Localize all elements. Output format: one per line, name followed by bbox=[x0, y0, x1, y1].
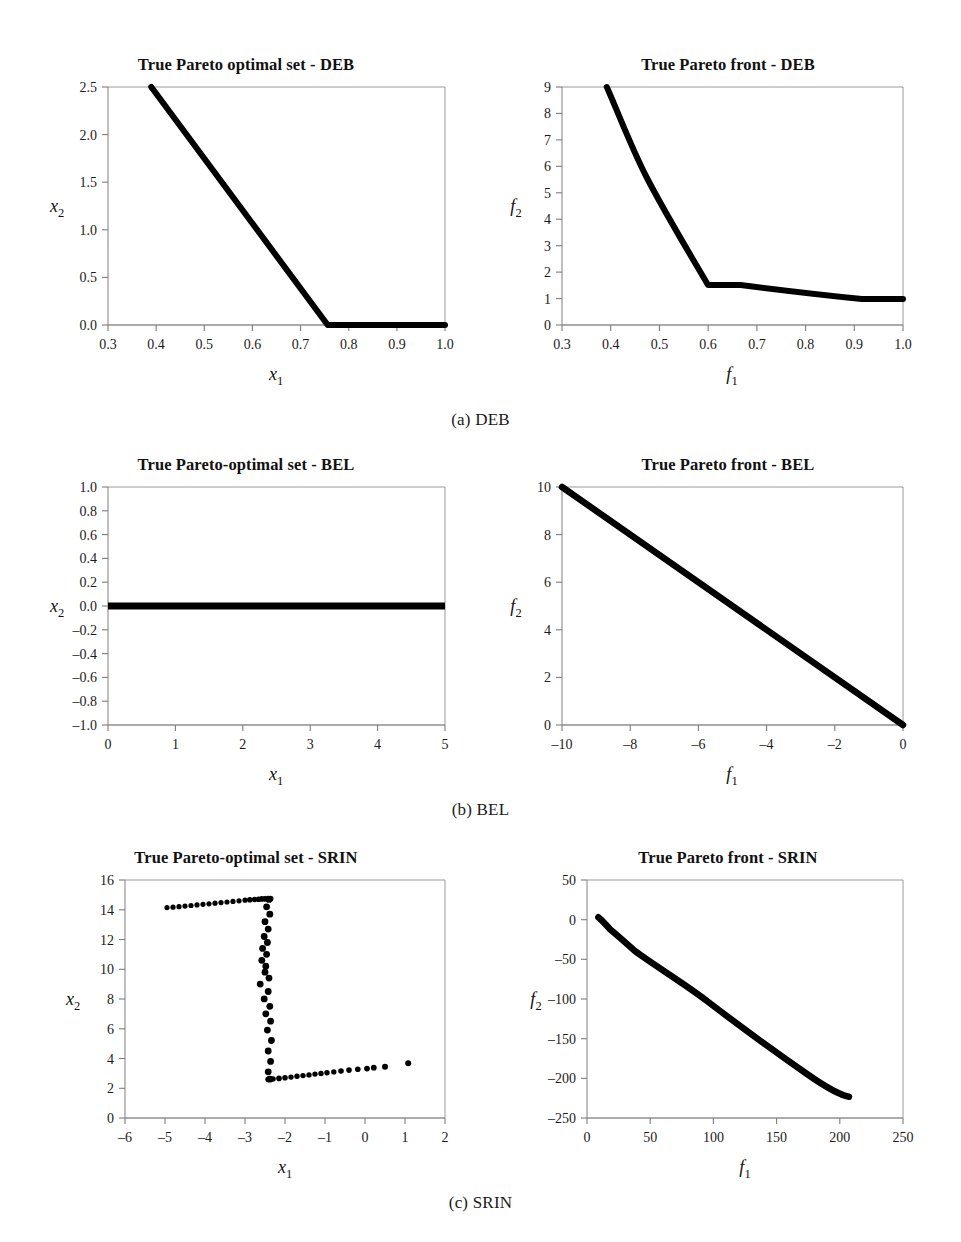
ytick-label: –100 bbox=[547, 992, 576, 1007]
xtick-label: 250 bbox=[893, 1130, 914, 1145]
ytick-label: 1.0 bbox=[80, 223, 98, 238]
plot-bel-set: –1.0 –0.8 –0.6 –0.4 –0.2 0.0 0.2 0.4 0.6… bbox=[25, 477, 475, 797]
xtick-label: –5 bbox=[157, 1130, 172, 1145]
xtick-label: 0.4 bbox=[147, 337, 165, 352]
xtick-label: 1.0 bbox=[436, 337, 454, 352]
xtick-label: 0.5 bbox=[196, 337, 214, 352]
ytick-label: 14 bbox=[100, 903, 114, 918]
ytick-label: 16 bbox=[100, 873, 114, 888]
data-series-srin-lower-arm bbox=[265, 1060, 411, 1082]
xtick-label: 100 bbox=[703, 1130, 724, 1145]
data-series-srin-front bbox=[598, 917, 849, 1097]
ytick-label: –0.4 bbox=[72, 647, 98, 662]
xtick-label: 50 bbox=[643, 1130, 657, 1145]
xaxis-title-bel-front: f1 bbox=[726, 764, 737, 788]
xtick-label: 0.7 bbox=[292, 337, 310, 352]
xtick-label: 5 bbox=[442, 737, 449, 752]
ytick-label: 2 bbox=[544, 265, 551, 280]
xtick-label: –4 bbox=[759, 737, 774, 752]
chart-panel-srin-set: True Pareto-optimal set - SRIN bbox=[25, 848, 475, 1193]
figure-row-deb: True Pareto optimal set - DEB 0.0 0.5 bbox=[0, 55, 961, 400]
xtick-label: 1 bbox=[402, 1130, 409, 1145]
xtick-label: –4 bbox=[197, 1130, 212, 1145]
yaxis-title-deb-front: f2 bbox=[510, 196, 521, 220]
ytick-label: 2 bbox=[107, 1081, 114, 1096]
xtick-label: 0.3 bbox=[99, 337, 117, 352]
ytick-label: 4 bbox=[107, 1052, 114, 1067]
data-series-deb-set bbox=[151, 87, 445, 325]
xtick-label: –2 bbox=[277, 1130, 292, 1145]
xtick-label: 0.9 bbox=[846, 337, 864, 352]
chart-title-srin-front: True Pareto front - SRIN bbox=[492, 848, 942, 868]
xtick-label: 0 bbox=[900, 737, 907, 752]
xtick-label: –2 bbox=[827, 737, 842, 752]
data-series-bel-front bbox=[562, 487, 903, 725]
yaxis-title-deb-set: x2 bbox=[49, 196, 64, 220]
xticks-srin-set: –6 –5 –4 –3 –2 –1 0 1 2 bbox=[117, 1118, 449, 1145]
subfigure-caption-srin: (c) SRIN bbox=[0, 1193, 961, 1213]
yticks-bel-set: –1.0 –0.8 –0.6 –0.4 –0.2 0.0 0.2 0.4 0.6… bbox=[72, 480, 109, 733]
ytick-label: 10 bbox=[100, 962, 114, 977]
xaxis-title-srin-set: x1 bbox=[277, 1157, 292, 1181]
yaxis-title-bel-front: f2 bbox=[510, 596, 521, 620]
ytick-label: 0 bbox=[107, 1111, 114, 1126]
ytick-label: –250 bbox=[547, 1111, 576, 1126]
chart-title-deb-set: True Pareto optimal set - DEB bbox=[25, 55, 475, 75]
xtick-label: 0.8 bbox=[797, 337, 815, 352]
xtick-label: 2 bbox=[239, 737, 246, 752]
plot-deb-set: 0.0 0.5 1.0 1.5 2.0 2.5 0.3 bbox=[25, 77, 475, 397]
ytick-label: 0 bbox=[569, 913, 576, 928]
axes-deb-set bbox=[108, 87, 445, 325]
xaxis-title-deb-set: x1 bbox=[268, 364, 283, 388]
yaxis-title-srin-set: x2 bbox=[65, 989, 80, 1013]
xtick-label: 0 bbox=[105, 737, 112, 752]
xtick-label: 0.7 bbox=[748, 337, 766, 352]
ytick-label: 0.0 bbox=[80, 318, 98, 333]
yticks-srin-set: 0 2 4 6 8 10 12 14 16 bbox=[100, 873, 125, 1126]
plot-bel-front: 0 2 4 6 8 10 –10 –8 –6 –4 bbox=[492, 477, 942, 797]
xtick-label: –6 bbox=[690, 737, 705, 752]
ytick-label: 0 bbox=[544, 318, 551, 333]
ytick-label: –150 bbox=[547, 1032, 576, 1047]
plot-srin-front: –250 –200 –150 –100 –50 0 50 0 50 bbox=[492, 870, 942, 1190]
ytick-label: 0.6 bbox=[80, 528, 98, 543]
xtick-label: 200 bbox=[829, 1130, 850, 1145]
yticks-deb-set: 0.0 0.5 1.0 1.5 2.0 2.5 bbox=[80, 80, 109, 333]
ytick-label: 9 bbox=[544, 80, 551, 95]
ytick-label: 8 bbox=[544, 528, 551, 543]
xtick-label: 0.5 bbox=[651, 337, 669, 352]
xtick-label: –8 bbox=[622, 737, 637, 752]
yticks-bel-front: 0 2 4 6 8 10 bbox=[537, 480, 562, 733]
plot-deb-front: 0 1 2 3 4 5 6 7 8 9 bbox=[492, 77, 942, 397]
xtick-label: 2 bbox=[442, 1130, 449, 1145]
chart-panel-srin-front: True Pareto front - SRIN –250 –200 bbox=[492, 848, 942, 1193]
ytick-label: –1.0 bbox=[72, 718, 98, 733]
yaxis-title-bel-set: x2 bbox=[49, 596, 64, 620]
xtick-label: 0.4 bbox=[602, 337, 620, 352]
ytick-label: 0.4 bbox=[80, 551, 98, 566]
figure-page: True Pareto optimal set - DEB 0.0 0.5 bbox=[0, 0, 961, 1242]
ytick-label: 0.8 bbox=[80, 504, 98, 519]
xtick-label: 1.0 bbox=[894, 337, 912, 352]
data-series-deb-front bbox=[607, 87, 903, 299]
chart-title-bel-front: True Pareto front - BEL bbox=[492, 455, 942, 475]
ytick-label: 2.5 bbox=[80, 80, 98, 95]
ytick-label: 6 bbox=[107, 1022, 114, 1037]
yticks-deb-front: 0 1 2 3 4 5 6 7 8 9 bbox=[544, 80, 562, 333]
ytick-label: 0.0 bbox=[80, 599, 98, 614]
xtick-label: 0.8 bbox=[340, 337, 358, 352]
ytick-label: –200 bbox=[547, 1071, 576, 1086]
xaxis-title-srin-front: f1 bbox=[739, 1157, 750, 1181]
chart-panel-deb-front: True Pareto front - DEB bbox=[492, 55, 942, 400]
ytick-label: 6 bbox=[544, 575, 551, 590]
chart-panel-bel-set: True Pareto-optimal set - BEL bbox=[25, 455, 475, 800]
ytick-label: 1 bbox=[544, 292, 551, 307]
ytick-label: 2 bbox=[544, 670, 551, 685]
plot-srin-set: 0 2 4 6 8 10 12 14 16 bbox=[25, 870, 475, 1190]
ytick-label: 1.0 bbox=[80, 480, 98, 495]
axes-srin-front bbox=[587, 880, 903, 1118]
ytick-label: 6 bbox=[544, 159, 551, 174]
ytick-label: –0.6 bbox=[72, 670, 98, 685]
xtick-label: 0 bbox=[584, 1130, 591, 1145]
xaxis-title-bel-set: x1 bbox=[268, 764, 283, 788]
